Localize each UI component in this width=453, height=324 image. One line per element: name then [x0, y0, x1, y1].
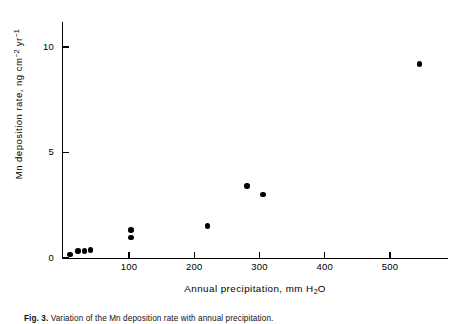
y-axis-exponent-2: −1 — [12, 29, 21, 37]
y-axis-tick — [63, 46, 69, 47]
data-point — [260, 192, 266, 198]
plot-area — [62, 22, 450, 258]
figure-caption-label: Fig. 3. — [24, 314, 48, 323]
data-point — [417, 61, 423, 67]
x-axis-tick-label: 500 — [365, 262, 415, 272]
y-axis-tick — [63, 257, 69, 258]
y-axis-title: Mn deposition rate, ng cm−2 yr−1 — [12, 0, 25, 214]
x-axis-tick-label: 200 — [169, 262, 219, 272]
x-axis-tick-label: 300 — [235, 262, 285, 272]
x-axis-title-text: Annual precipitation, mm H — [184, 283, 313, 294]
data-point — [128, 235, 134, 241]
x-axis-tick-label: 400 — [300, 262, 350, 272]
x-axis-tick — [324, 252, 325, 258]
x-axis-tick — [194, 252, 195, 258]
x-axis-title-end: O — [318, 283, 326, 294]
data-point — [75, 248, 81, 254]
figure-container: Mn deposition rate, ng cm−2 yr−1 Annual … — [0, 0, 453, 324]
x-axis-title: Annual precipitation, mm H2O — [62, 283, 448, 297]
figure-caption: Fig. 3. Variation of the Mn deposition r… — [24, 314, 444, 324]
data-point — [244, 183, 250, 189]
data-point — [128, 227, 134, 233]
data-point — [82, 248, 88, 254]
x-axis-tick — [389, 252, 390, 258]
figure-caption-text: Variation of the Mn deposition rate with… — [51, 314, 274, 323]
y-axis-tick-label: 10 — [14, 42, 54, 52]
x-axis-tick-label: 100 — [104, 262, 154, 272]
data-point — [205, 223, 211, 229]
y-axis-title-text: Mn deposition rate, ng cm — [13, 58, 24, 180]
y-axis-tick-label: 5 — [14, 147, 54, 157]
x-axis-tick — [128, 252, 129, 258]
y-axis-tick-label: 0 — [14, 253, 54, 263]
x-axis-tick — [259, 252, 260, 258]
y-axis-tick — [63, 152, 69, 153]
